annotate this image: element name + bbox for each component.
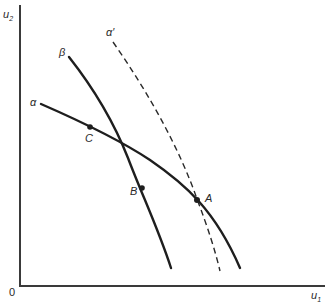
point-b-label: B bbox=[130, 185, 137, 197]
curve-alpha-prime-label: α′ bbox=[106, 26, 115, 38]
curve-beta bbox=[69, 57, 171, 268]
curve-beta-label: β bbox=[58, 46, 66, 58]
point-a-label: A bbox=[204, 192, 212, 204]
point-a bbox=[194, 197, 200, 203]
curve-alpha-prime bbox=[113, 42, 220, 271]
x-axis-label: u1 bbox=[311, 289, 321, 303]
origin-label: 0 bbox=[9, 286, 15, 298]
point-c bbox=[87, 124, 93, 130]
point-c-label: C bbox=[85, 132, 93, 144]
utility-possibility-diagram: u2 0 u1 α β α′ C B A bbox=[0, 0, 331, 305]
curve-alpha-label: α bbox=[30, 96, 37, 108]
y-axis-label: u2 bbox=[3, 8, 13, 22]
point-b bbox=[139, 185, 145, 191]
